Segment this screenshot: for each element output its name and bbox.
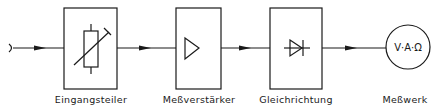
label-gleichrichtung: Gleichrichtung <box>259 94 333 105</box>
input-connector-icon <box>9 44 12 52</box>
label-messverstaerker: Meßverstärker <box>163 94 236 105</box>
label-messwerk: Meßwerk <box>382 94 427 105</box>
block-eingangsteiler <box>64 8 117 89</box>
diode-icon <box>284 40 310 56</box>
variable-resistor-icon <box>74 24 111 74</box>
meter-units-text: V·A·Ω <box>394 42 422 53</box>
label-eingangsteiler: Eingangsteiler <box>55 94 127 105</box>
amplifier-icon <box>185 38 199 59</box>
